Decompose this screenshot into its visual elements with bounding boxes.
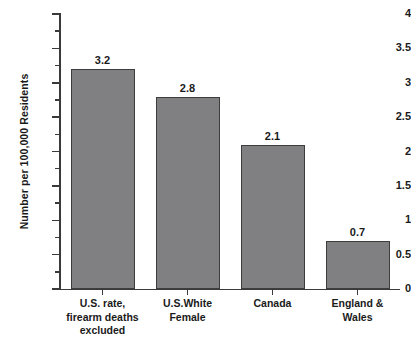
y-tick-major xyxy=(52,254,59,256)
y-tick-label: 1 xyxy=(365,214,411,225)
y-tick-major xyxy=(52,13,59,15)
y-tick-label: 3 xyxy=(365,77,411,88)
x-category-label: Canada xyxy=(230,297,315,311)
y-axis-title: Number per 100,000 Residents xyxy=(16,14,32,289)
y-tick-minor xyxy=(55,99,59,101)
y-tick-label: 2 xyxy=(365,146,411,157)
y-tick-minor xyxy=(55,65,59,67)
y-tick-major xyxy=(52,185,59,187)
y-tick-major xyxy=(52,82,59,84)
x-category-label: U.S. rate, firearm deaths excluded xyxy=(60,297,145,338)
bar xyxy=(71,69,135,289)
x-tick xyxy=(102,290,104,295)
bar xyxy=(326,241,390,289)
bar-chart: Number per 100,000 Residents 00.511.522.… xyxy=(0,0,411,352)
y-tick-label: 2.5 xyxy=(365,111,411,122)
y-axis-line xyxy=(59,13,61,290)
y-tick-major xyxy=(52,48,59,50)
x-tick xyxy=(272,290,274,295)
y-tick-minor xyxy=(55,271,59,273)
y-tick-label: 1.5 xyxy=(365,180,411,191)
y-tick-label: 3.5 xyxy=(365,42,411,53)
x-category-label: England & Wales xyxy=(315,297,400,324)
x-tick xyxy=(357,290,359,295)
y-tick-major xyxy=(52,220,59,222)
y-tick-label: 4 xyxy=(365,8,411,19)
y-tick-minor xyxy=(55,202,59,204)
x-category-label: U.S.White Female xyxy=(145,297,230,324)
y-tick-minor xyxy=(55,237,59,239)
y-tick-major xyxy=(52,288,59,290)
y-tick-major xyxy=(52,151,59,153)
bar-value-label: 2.1 xyxy=(243,130,303,142)
y-tick-minor xyxy=(55,168,59,170)
x-tick xyxy=(187,290,189,295)
bar xyxy=(241,145,305,289)
y-tick-minor xyxy=(55,30,59,32)
bar-value-label: 0.7 xyxy=(328,226,388,238)
y-tick-minor xyxy=(55,134,59,136)
bar xyxy=(156,97,220,290)
bar-value-label: 2.8 xyxy=(158,82,218,94)
y-tick-major xyxy=(52,116,59,118)
bar-value-label: 3.2 xyxy=(73,54,133,66)
